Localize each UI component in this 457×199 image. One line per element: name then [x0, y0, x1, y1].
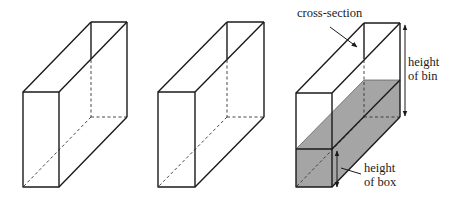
- edge: [23, 22, 91, 92]
- height-of-bin-label-line2: of bin: [408, 69, 438, 83]
- edge: [158, 22, 227, 92]
- edge: [59, 22, 127, 92]
- hidden-edge: [158, 117, 227, 187]
- edge: [296, 23, 364, 93]
- height-of-box-label-line2: of box: [364, 175, 397, 189]
- edge: [195, 22, 264, 92]
- front-face: [23, 92, 59, 187]
- height-of-bin-label-line1: height: [408, 55, 440, 69]
- edge: [195, 117, 264, 187]
- bin-diagram: cross-section height of bin height of bo…: [0, 0, 457, 199]
- hidden-edge: [23, 117, 91, 187]
- box-1: [23, 22, 127, 187]
- front-face: [158, 92, 195, 187]
- box-2: [158, 22, 264, 187]
- cross-section-label: cross-section: [297, 6, 363, 20]
- edge: [59, 117, 127, 187]
- box-3: cross-section height of bin height of bo…: [296, 6, 440, 189]
- height-of-box-label-line1: height: [364, 161, 396, 175]
